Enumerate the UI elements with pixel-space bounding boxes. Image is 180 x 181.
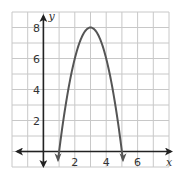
axes [17, 16, 171, 166]
parabola-chart: 2462468 x y [0, 0, 180, 181]
x-tick-label: 6 [134, 156, 141, 169]
tick-labels: 2462468 [33, 22, 141, 169]
y-tick-label: 4 [33, 84, 40, 97]
x-tick-label: 2 [71, 156, 78, 169]
x-tick-label: 4 [103, 156, 110, 169]
y-tick-label: 6 [33, 53, 40, 66]
y-tick-label: 8 [33, 22, 40, 35]
y-axis-label: y [47, 10, 55, 23]
x-axis-label: x [166, 156, 173, 169]
y-tick-label: 2 [33, 115, 40, 128]
